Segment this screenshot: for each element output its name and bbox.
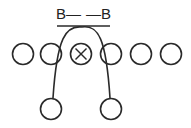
player-circle bbox=[131, 44, 152, 65]
play-diagram: B— —B bbox=[0, 0, 191, 128]
front-row bbox=[13, 44, 182, 65]
back-player-circle bbox=[41, 99, 62, 120]
diagram-canvas bbox=[0, 0, 191, 128]
player-circle bbox=[161, 44, 182, 65]
back-row bbox=[41, 99, 122, 120]
player-circle bbox=[13, 44, 34, 65]
back-player-circle bbox=[101, 99, 122, 120]
